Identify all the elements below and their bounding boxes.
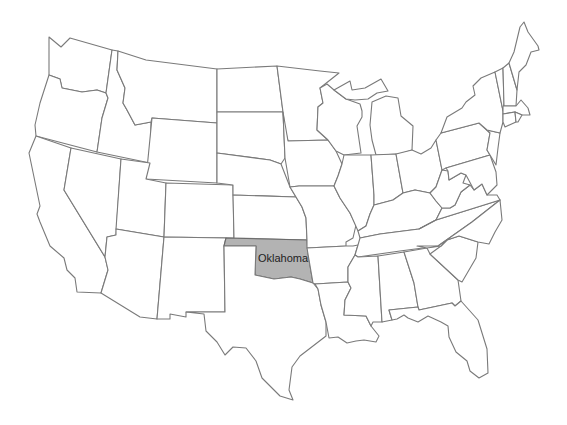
state-new-york[interactable] (441, 72, 503, 133)
state-arizona[interactable] (101, 229, 164, 319)
us-map: Oklahoma (0, 0, 567, 425)
state-kansas[interactable] (233, 195, 307, 240)
state-colorado[interactable] (164, 183, 234, 238)
state-michigan-lower[interactable] (370, 96, 413, 155)
state-connecticut[interactable] (503, 112, 516, 127)
state-florida[interactable] (389, 301, 488, 378)
state-maine[interactable] (509, 22, 539, 90)
state-new-mexico[interactable] (157, 237, 226, 319)
state-montana[interactable] (117, 51, 217, 125)
oklahoma-label: Oklahoma (258, 252, 309, 264)
state-north-dakota[interactable] (217, 66, 283, 112)
state-mississippi[interactable] (344, 255, 382, 326)
state-wyoming[interactable] (146, 118, 217, 183)
